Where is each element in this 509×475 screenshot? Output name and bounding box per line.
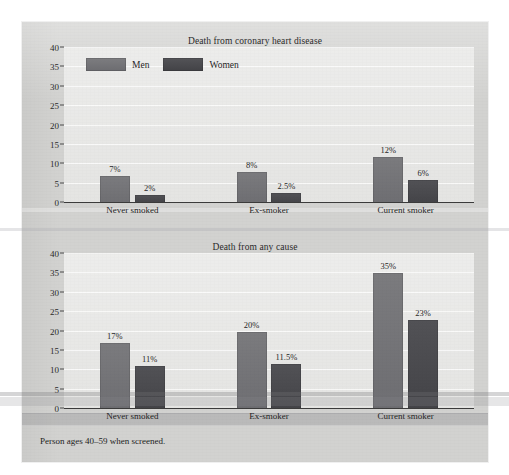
- legend-item-women: Women: [163, 58, 238, 71]
- y-axis-tick-label: 35: [50, 268, 59, 278]
- y-axis-tick-label: 40: [50, 249, 59, 259]
- y-axis-tick-label: 15: [50, 346, 59, 356]
- bar-men-current-smoker: [373, 273, 403, 409]
- y-axis-tick-label: 30: [50, 288, 59, 298]
- bar-women-never-smoked: [135, 366, 165, 409]
- y-axis-tick-label: 15: [50, 140, 59, 150]
- y-axis-tick-label: 10: [50, 365, 59, 375]
- bar-men-current-smoker: [373, 157, 403, 204]
- y-axis-tick-label: 0: [55, 198, 60, 208]
- y-axis-tick-label: 35: [50, 62, 59, 72]
- bar-value-label: 35%: [380, 261, 396, 271]
- bar-value-label: 6%: [417, 168, 428, 178]
- bar-men-ex-smoker: [237, 332, 267, 410]
- y-axis-tick-label: 25: [50, 307, 59, 317]
- bar-women-current-smoker: [408, 320, 438, 409]
- y-axis-tick-label: 0: [55, 404, 60, 414]
- figure-panel: Death from coronary heart disease 051015…: [22, 22, 488, 462]
- plot-area-bottom: 0510152025303540 17%11%20%11.5%35%23%: [64, 254, 474, 409]
- legend-swatch-men-icon: [86, 58, 126, 71]
- legend-label-men: Men: [132, 60, 149, 70]
- bar-value-label: 17%: [107, 331, 123, 341]
- bar-men-ex-smoker: [237, 172, 267, 203]
- chart-title-top: Death from coronary heart disease: [22, 30, 488, 48]
- x-axis-category-labels-bottom: Never smokedEx-smokerCurrent smoker: [64, 409, 474, 425]
- bar-value-label: 8%: [246, 160, 257, 170]
- bar-value-label: 7%: [109, 164, 120, 174]
- bar-women-ex-smoker: [271, 364, 301, 409]
- plot-area-top: 0510152025303540 7%2%8%2.5%12%6%: [64, 48, 474, 203]
- bar-men-never-smoked: [100, 343, 130, 409]
- bar-value-label: 11%: [142, 354, 157, 364]
- bar-value-label: 11.5%: [276, 352, 298, 362]
- legend-item-men: Men: [86, 58, 149, 71]
- bar-value-label: 12%: [380, 145, 396, 155]
- chart-title-bottom: Death from any cause: [22, 236, 488, 254]
- bars-group-bottom: 17%11%20%11.5%35%23%: [64, 254, 474, 409]
- x-axis-label-never-smoked: Never smoked: [106, 411, 158, 421]
- bar-women-current-smoker: [408, 180, 438, 203]
- figure-footnote: Person ages 40–59 when screened.: [40, 436, 165, 446]
- x-axis-label-current-smoker: Current smoker: [378, 205, 434, 215]
- y-axis-tick-label: 25: [50, 101, 59, 111]
- bar-value-label: 2.5%: [278, 181, 296, 191]
- y-axis-tick-label: 30: [50, 82, 59, 92]
- y-axis-tick-label: 5: [55, 179, 60, 189]
- x-axis-label-current-smoker: Current smoker: [378, 411, 434, 421]
- y-axis-tick-label: 20: [50, 327, 59, 337]
- y-axis-tick-label: 10: [50, 159, 59, 169]
- y-axis-tick-label: 5: [55, 385, 60, 395]
- legend-label-women: Women: [209, 60, 238, 70]
- y-axis-tick-label: 40: [50, 43, 59, 53]
- bar-value-label: 20%: [244, 320, 260, 330]
- legend-swatch-women-icon: [163, 58, 203, 71]
- bars-group-top: 7%2%8%2.5%12%6%: [64, 48, 474, 203]
- bar-value-label: 2%: [144, 183, 155, 193]
- bar-men-never-smoked: [100, 176, 130, 203]
- x-axis-category-labels-top: Never smokedEx-smokerCurrent smoker: [64, 203, 474, 219]
- x-axis-label-never-smoked: Never smoked: [106, 205, 158, 215]
- x-axis-label-ex-smoker: Ex-smoker: [249, 205, 289, 215]
- chart-death-from-any-cause: Death from any cause 0510152025303540 17…: [22, 236, 488, 432]
- x-axis-label-ex-smoker: Ex-smoker: [249, 411, 289, 421]
- chart-legend: Men Women: [86, 58, 239, 71]
- y-axis-tick-label: 20: [50, 121, 59, 131]
- bar-value-label: 23%: [415, 308, 431, 318]
